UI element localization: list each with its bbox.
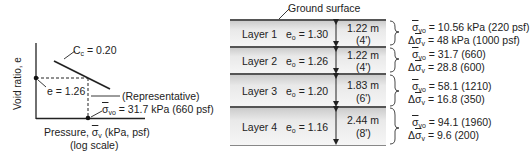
layer-1-eo: eo = 1.30 (286, 29, 328, 41)
layer-4-sigma-vo: σvo = 94.1 (1960) (412, 117, 492, 129)
e-value-label: e = 1.26 (47, 86, 85, 97)
layer-3-thickness-ft: (6') (356, 93, 371, 104)
stress-braces (388, 18, 404, 148)
layer-2-eo: eo = 1.26 (286, 56, 328, 68)
layer-1-sigma-vo: σvo = 10.56 kPa (220 psf) (412, 22, 530, 34)
layer-2-name: Layer 2 (242, 56, 277, 67)
x-axis-label: Pressure, σv (kPa, psf) (44, 127, 150, 139)
layer-2-thickness-ft: (4') (356, 62, 371, 73)
y-axis-label: Void ratio, e (13, 57, 23, 110)
layer-4-thickness-ft: (8') (356, 128, 371, 139)
layer-2-delta-sigma-v: Δσv = 28.8 (600) (408, 62, 485, 74)
layer-1-thickness-ft: (4') (356, 35, 371, 46)
layer-2-sigma-vo: σvo = 31.7 (660) (412, 49, 486, 61)
layer-3-name: Layer 3 (242, 86, 277, 97)
sigma-point (86, 116, 91, 121)
layer-3-sigma-vo: σvo = 58.1 (1210) (412, 81, 492, 93)
layer-4-delta-sigma-v: Δσv = 9.6 (200) (408, 130, 479, 142)
thickness-arrows (330, 18, 342, 148)
e-point (34, 76, 39, 81)
layer-1-thickness-m: 1.22 m (347, 23, 379, 34)
layer-3-eo: eo = 1.20 (286, 86, 328, 98)
layer-4-name: Layer 4 (242, 122, 277, 133)
sigma-leader (91, 111, 102, 117)
layer-3-delta-sigma-v: Δσv = 16.8 (350) (408, 94, 485, 106)
layer-1-name: Layer 1 (242, 29, 277, 40)
cc-label: Cc = 0.20 (73, 45, 117, 57)
layer-4-thickness-m: 2.44 m (347, 115, 379, 126)
x-axis-note: (log scale) (70, 140, 118, 151)
layer-4-eo: eo = 1.16 (286, 122, 328, 134)
sigma-vo-label: σvo = 31.7 kPa (660 psf) (102, 104, 214, 116)
layer-2-thickness-m: 1.22 m (347, 50, 379, 61)
ground-surface-label: Ground surface (288, 3, 360, 14)
layer-1-delta-sigma-v: Δσv = 48 kPa (1000 psf) (408, 35, 520, 47)
representative-label: (Representative) (122, 91, 200, 102)
layer-3-thickness-m: 1.83 m (347, 80, 379, 91)
e-leader (38, 80, 46, 87)
